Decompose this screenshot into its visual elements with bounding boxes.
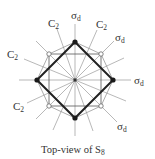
label-c2-left: C2 xyxy=(7,48,18,62)
label-sigma-top: σd xyxy=(71,9,81,23)
atom-filled-left xyxy=(34,77,39,82)
atom-filled-top xyxy=(72,39,77,44)
label-c2-lower-left: C2 xyxy=(13,100,24,114)
label-sigma-upper-right: σd xyxy=(115,31,125,45)
atom-open-ur xyxy=(99,52,103,56)
label-sigma-lower-right: σd xyxy=(117,120,127,134)
atom-open-ul xyxy=(47,52,51,56)
label-c2-upper-left: C2 xyxy=(48,17,59,31)
s8-top-view-diagram: σd σd σd σd C2 C2 C2 C2 Top-view of S8 xyxy=(0,0,155,159)
figure-caption: Top-view of S8 xyxy=(41,144,105,157)
atom-filled-right xyxy=(110,77,115,82)
label-sigma-right: σd xyxy=(134,74,144,88)
label-c2-upper-right: C2 xyxy=(96,18,107,32)
atom-open-lr xyxy=(99,104,103,108)
atom-filled-bottom xyxy=(72,115,77,120)
center-point xyxy=(74,79,77,82)
atom-open-ll xyxy=(47,104,51,108)
